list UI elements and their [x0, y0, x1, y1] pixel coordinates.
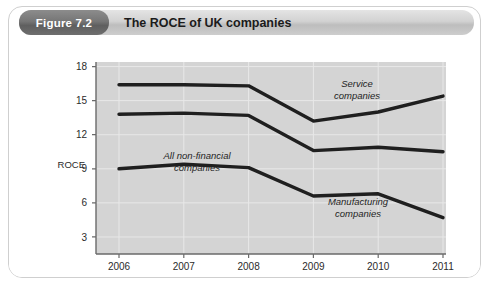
- figure-number-badge: Figure 7.2: [19, 10, 109, 35]
- figure-header: Figure 7.2 The ROCE of UK companies: [9, 7, 481, 37]
- x-tick-label: 2009: [302, 261, 325, 272]
- annotation-service-line1: Service: [341, 78, 373, 89]
- figure-title: The ROCE of UK companies: [124, 10, 291, 35]
- y-tick-label: 3: [81, 232, 87, 243]
- annotation-all-non-financial-line1: All non-financial: [162, 150, 231, 161]
- figure-number-label: Figure 7.2: [36, 17, 92, 29]
- y-tick-label: 18: [76, 61, 88, 72]
- x-tick-label: 2008: [237, 261, 260, 272]
- annotation-manufacturing-line1: Manufacturing: [328, 196, 389, 207]
- y-tick-label: 15: [76, 95, 88, 106]
- roce-line-chart: 181512963 200620072008200920102011 ROCE …: [9, 37, 481, 278]
- annotation-manufacturing-line2: companies: [335, 208, 381, 219]
- x-tick-label: 2006: [108, 261, 131, 272]
- x-tick-label: 2010: [367, 261, 390, 272]
- x-axis-ticks: 200620072008200920102011: [108, 254, 454, 272]
- y-tick-label: 6: [81, 197, 87, 208]
- chart-plot-region: 181512963 200620072008200920102011 ROCE …: [9, 37, 481, 278]
- x-tick-label: 2007: [173, 261, 196, 272]
- y-axis-ticks: 181512963: [76, 61, 96, 242]
- annotation-all-non-financial-line2: companies: [174, 162, 220, 173]
- y-tick-label: 12: [76, 129, 88, 140]
- y-axis-title: ROCE: [58, 159, 85, 170]
- annotation-service-line2: companies: [334, 90, 380, 101]
- x-tick-label: 2011: [432, 261, 454, 272]
- figure-card: Figure 7.2 The ROCE of UK companies 1815…: [8, 6, 481, 278]
- plot-background: [96, 62, 446, 254]
